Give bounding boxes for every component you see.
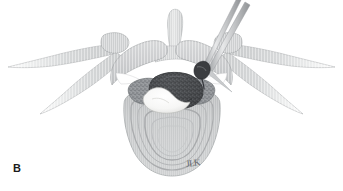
panel-label: B <box>13 163 21 174</box>
figure-panel-b: B JLK <box>0 0 343 191</box>
artist-signature: JLK <box>185 157 200 169</box>
vertebra-axial-illustration <box>0 0 343 191</box>
